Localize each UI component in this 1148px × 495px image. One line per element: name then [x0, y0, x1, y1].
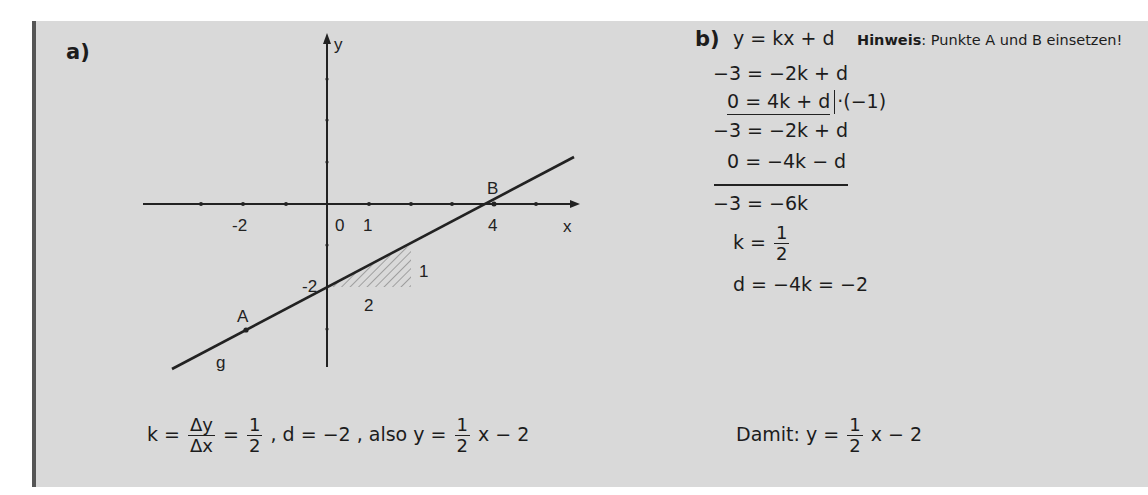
tick-label-4: 4	[488, 216, 497, 235]
tick-label-y-neg2: -2	[302, 277, 317, 296]
hint-text: Hinweis: Punkte A und B einsetzen!	[857, 33, 1122, 48]
x-axis-label: x	[563, 217, 572, 236]
half-fraction-b: 12	[455, 416, 470, 455]
step-6: k = 12	[733, 224, 791, 263]
step-4: 0 = −4k − d	[727, 152, 846, 171]
point-a-label: A	[237, 307, 249, 326]
result-formula: Damit: y = 12 x − 2	[736, 416, 922, 455]
line-g-label: g	[216, 353, 225, 372]
tick-label-origin: 0	[335, 216, 344, 235]
line-g	[172, 157, 574, 369]
step-5: −3 = −6k	[713, 194, 808, 213]
tick-label-1: 1	[363, 216, 372, 235]
y-axis-label: y	[334, 35, 343, 54]
sum-line	[714, 184, 848, 186]
step-2: 0 = 4k + d·(−1)	[727, 90, 886, 114]
point-a	[243, 327, 248, 332]
point-b-label: B	[487, 179, 498, 198]
general-equation: y = kx + d	[733, 29, 835, 48]
step-1: −3 = −2k + d	[713, 64, 848, 83]
run-label: 2	[364, 296, 373, 315]
step-7: d = −4k = −2	[733, 275, 868, 294]
tick-label-neg2: -2	[232, 216, 247, 235]
y-axis-arrow-icon	[323, 33, 331, 44]
part-b-label: b)	[695, 27, 720, 51]
coordinate-graph: y x -2 0 1 4 -2 B A g 1 2	[0, 0, 640, 400]
slope-formula: k = ΔyΔx = 12 , d = −2 , also y = 12 x −…	[147, 416, 529, 455]
step-3: −3 = −2k + d	[713, 121, 848, 140]
delta-fraction: ΔyΔx	[188, 416, 215, 455]
half-fraction: 12	[247, 416, 262, 455]
rise-label: 1	[419, 262, 428, 281]
x-axis-arrow-icon	[570, 200, 580, 208]
